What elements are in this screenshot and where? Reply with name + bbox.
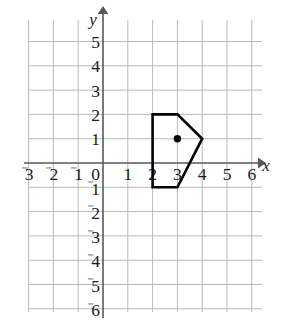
x-tick-label-5: 5 bbox=[223, 164, 232, 184]
x-tick-digit-neg1: 1 bbox=[74, 164, 83, 184]
y-tick-label-1: 1 bbox=[91, 129, 100, 149]
x-tick-label-neg1: ⁻ 1 bbox=[70, 163, 83, 184]
y-tick-label-neg6: ⁻ 6 bbox=[87, 299, 101, 321]
center-point-marker bbox=[174, 135, 181, 142]
y-tick-label-neg5: ⁻ 5 bbox=[87, 274, 101, 296]
y-tick-digit-neg4: 4 bbox=[91, 251, 100, 271]
y-tick-digit-neg1: 1 bbox=[91, 179, 100, 199]
y-tick-label-3: 3 bbox=[91, 81, 100, 101]
vertical-grid-lines bbox=[29, 20, 252, 312]
x-tick-label-neg3: ⁻ 3 bbox=[21, 163, 34, 184]
y-tick-label-neg1: ⁻ 1 bbox=[87, 177, 100, 199]
y-tick-label-5: 5 bbox=[91, 32, 100, 52]
x-axis-label: x bbox=[261, 156, 270, 175]
y-tick-label-4: 4 bbox=[91, 56, 100, 76]
x-tick-label-1: 1 bbox=[123, 164, 132, 184]
y-tick-label-2: 2 bbox=[91, 105, 100, 125]
y-tick-label-neg4: ⁻ 4 bbox=[87, 250, 101, 272]
y-tick-digit-neg3: 3 bbox=[91, 227, 100, 247]
x-tick-digit-neg3: 3 bbox=[25, 164, 34, 184]
y-axis-label: y bbox=[87, 10, 97, 29]
x-tick-digit-neg2: 2 bbox=[49, 164, 58, 184]
x-tick-label-neg2: ⁻ 2 bbox=[45, 163, 58, 184]
y-tick-label-neg3: ⁻ 3 bbox=[87, 226, 101, 248]
y-axis-arrowhead bbox=[98, 6, 109, 14]
coordinate-plane-figure: x y ⁻ 3 ⁻ 2 ⁻ 1 0 1 2 3 4 5 6 5 4 3 2 1 … bbox=[0, 0, 283, 324]
axis-lines bbox=[24, 6, 266, 318]
y-tick-digit-neg5: 5 bbox=[91, 276, 100, 296]
x-tick-label-6: 6 bbox=[247, 164, 256, 184]
x-tick-label-4: 4 bbox=[198, 164, 207, 184]
x-tick-labels: ⁻ 3 ⁻ 2 ⁻ 1 0 1 2 3 4 5 6 bbox=[21, 163, 257, 184]
axis-names: x y bbox=[87, 10, 270, 175]
y-tick-digit-neg6: 6 bbox=[91, 300, 100, 320]
y-tick-digit-neg2: 2 bbox=[91, 203, 100, 223]
coordinate-grid-svg: x y ⁻ 3 ⁻ 2 ⁻ 1 0 1 2 3 4 5 6 5 4 3 2 1 … bbox=[0, 0, 283, 324]
y-tick-label-neg2: ⁻ 2 bbox=[87, 201, 100, 223]
